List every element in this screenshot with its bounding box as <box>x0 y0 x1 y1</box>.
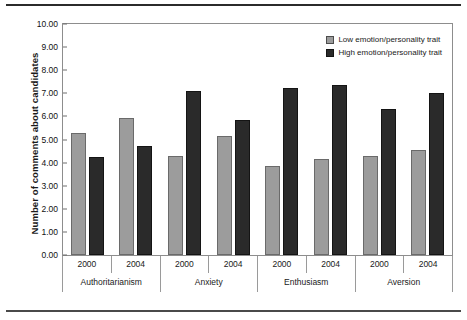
legend-swatch-icon <box>326 36 334 44</box>
top-divider-rule <box>6 4 461 6</box>
y-tick-label: 10.00 <box>37 19 58 29</box>
bar <box>137 146 152 256</box>
bar <box>314 159 329 255</box>
y-tick-label: 1.00 <box>41 227 58 237</box>
x-axis-group-label: Aversion <box>356 273 454 292</box>
x-axis-group-row: AuthoritarianismAnxietyEnthusiasmAversio… <box>62 273 453 292</box>
bar <box>71 133 86 255</box>
bar-supergroup <box>160 24 257 255</box>
x-axis-labels: 20002004200020042000200420002004 Authori… <box>62 256 453 292</box>
bar-subgroup <box>63 24 112 255</box>
bar <box>168 156 183 255</box>
bar <box>283 88 298 255</box>
y-tick-label: 3.00 <box>41 181 58 191</box>
y-tick-label: 0.00 <box>41 250 58 260</box>
y-tick-label: 5.00 <box>41 135 58 145</box>
y-tick-label: 8.00 <box>41 65 58 75</box>
y-tick-label: 6.00 <box>41 111 58 121</box>
x-axis-year-label: 2000 <box>62 256 112 273</box>
legend-label: Low emotion/personality trait <box>338 33 440 46</box>
y-axis-title: Number of comments about candidates <box>29 24 40 264</box>
bar-subgroup <box>258 24 307 255</box>
y-tick-label: 9.00 <box>41 42 58 52</box>
legend-label: High emotion/personality trait <box>338 46 442 59</box>
x-axis-year-label: 2004 <box>404 256 453 273</box>
legend-item: Low emotion/personality trait <box>326 33 442 46</box>
x-axis-year-label: 2000 <box>258 256 307 273</box>
bottom-divider-rule <box>6 310 461 312</box>
bar <box>332 85 347 255</box>
x-axis-year-label: 2000 <box>356 256 405 273</box>
y-tick-label: 7.00 <box>41 88 58 98</box>
legend-swatch-icon <box>326 49 334 57</box>
bar <box>429 93 444 255</box>
x-axis-year-row: 20002004200020042000200420002004 <box>62 256 453 273</box>
chart-figure: Number of comments about candidates 10.0… <box>0 0 467 320</box>
legend-item: High emotion/personality trait <box>326 46 442 59</box>
bar <box>265 166 280 255</box>
bar <box>186 91 201 255</box>
bar <box>89 157 104 255</box>
bar-subgroup <box>160 24 209 255</box>
y-tick-label: 2.00 <box>41 204 58 214</box>
bar <box>363 156 378 255</box>
bar <box>411 150 426 255</box>
bar-supergroup <box>63 24 160 255</box>
x-axis-year-label: 2004 <box>307 256 356 273</box>
x-axis-group-label: Authoritarianism <box>62 273 161 292</box>
chart-legend: Low emotion/personality traitHigh emotio… <box>321 29 447 63</box>
x-axis-year-label: 2004 <box>112 256 161 273</box>
x-axis-year-label: 2004 <box>209 256 258 273</box>
bar <box>235 120 250 255</box>
x-axis-group-label: Anxiety <box>161 273 259 292</box>
bar <box>381 109 396 255</box>
x-axis-group-label: Enthusiasm <box>258 273 356 292</box>
bar <box>119 118 134 255</box>
bar-subgroup <box>209 24 258 255</box>
y-tick-label: 4.00 <box>41 158 58 168</box>
x-axis-year-label: 2000 <box>161 256 210 273</box>
bar <box>217 136 232 255</box>
plot-area: 10.009.008.007.006.005.004.003.002.001.0… <box>62 23 453 256</box>
bar-subgroup <box>112 24 161 255</box>
